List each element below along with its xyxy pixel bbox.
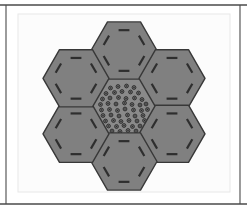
center-dot-core bbox=[110, 114, 112, 116]
center-dot-core bbox=[105, 120, 107, 122]
center-dot-core bbox=[102, 115, 104, 117]
center-dot-core bbox=[133, 109, 135, 111]
center-dot-core bbox=[110, 87, 112, 89]
center-dot-core bbox=[141, 99, 143, 101]
center-dot-core bbox=[116, 126, 118, 128]
center-dot-core bbox=[127, 130, 129, 132]
center-dot-core bbox=[118, 97, 120, 99]
center-dot-core bbox=[128, 120, 130, 122]
center-dot-core bbox=[107, 103, 109, 105]
center-dot-core bbox=[139, 104, 141, 106]
center-dot-core bbox=[138, 92, 140, 94]
center-dot-core bbox=[124, 102, 126, 104]
honeycomb-diagram: Hexagonal honeycomb array diagram Seven … bbox=[0, 0, 247, 213]
center-dot-core bbox=[144, 120, 146, 122]
center-dot-core bbox=[134, 115, 136, 117]
center-dot-core bbox=[105, 93, 107, 95]
center-dot-core bbox=[115, 103, 117, 105]
center-dot-core bbox=[139, 125, 141, 127]
center-dot-core bbox=[119, 131, 121, 133]
center-dot-core bbox=[135, 130, 137, 132]
center-dot-core bbox=[101, 109, 103, 111]
center-dot-core bbox=[123, 125, 125, 127]
center-dot-core bbox=[141, 110, 143, 112]
center-dot-core bbox=[100, 104, 102, 106]
center-dot-core bbox=[127, 114, 129, 116]
center-dot-core bbox=[117, 110, 119, 112]
center-dot-core bbox=[120, 121, 122, 123]
center-dot-core bbox=[134, 97, 136, 99]
center-dot-core bbox=[131, 104, 133, 106]
center-dot-core bbox=[114, 92, 116, 94]
figure-root: Hexagonal honeycomb array diagram Seven … bbox=[0, 0, 247, 213]
center-dot-core bbox=[130, 91, 132, 93]
center-dot-core bbox=[108, 125, 110, 127]
center-dot-core bbox=[109, 109, 111, 111]
center-dot-core bbox=[118, 115, 120, 117]
center-dot-core bbox=[136, 120, 138, 122]
center-dot-core bbox=[145, 103, 147, 105]
center-dot-core bbox=[126, 85, 128, 87]
center-dot-core bbox=[102, 98, 104, 100]
center-dot-core bbox=[109, 97, 111, 99]
center-dot-core bbox=[111, 130, 113, 132]
center-dot-core bbox=[125, 98, 127, 100]
center-dot-core bbox=[113, 120, 115, 122]
center-dot-core bbox=[133, 87, 135, 89]
center-dot-core bbox=[117, 86, 119, 88]
center-dot-core bbox=[121, 91, 123, 93]
center-dot-core bbox=[132, 126, 134, 128]
center-dot-core bbox=[124, 108, 126, 110]
center-dot-core bbox=[142, 115, 144, 117]
center-dot-core bbox=[147, 109, 149, 111]
